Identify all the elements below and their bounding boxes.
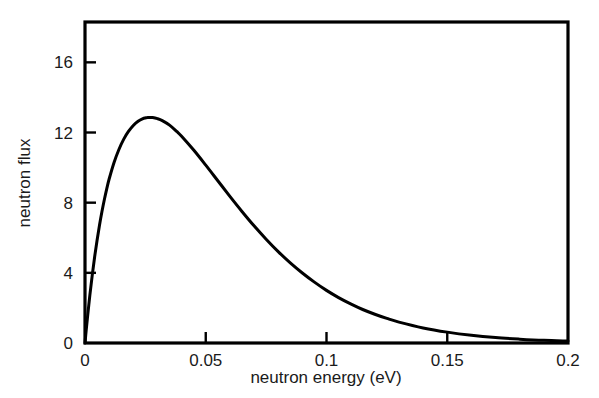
x-axis-tick-label: 0.15 — [431, 351, 464, 370]
neutron-flux-chart: 0481216 00.050.10.150.2 neutron energy (… — [0, 0, 599, 398]
x-axis-title: neutron energy (eV) — [250, 368, 401, 387]
x-axis-tick-label: 0.05 — [189, 351, 222, 370]
y-axis-tick-label: 16 — [54, 53, 73, 72]
x-axis-tick-label: 0.2 — [556, 351, 580, 370]
x-axis-tick-label: 0 — [80, 351, 89, 370]
y-axis-tick-label: 12 — [54, 124, 73, 143]
y-axis-title: neutron flux — [15, 138, 34, 227]
y-axis-tick-label: 0 — [64, 334, 73, 353]
y-axis-tick-label: 8 — [64, 194, 73, 213]
y-axis-tick-label: 4 — [64, 264, 73, 283]
